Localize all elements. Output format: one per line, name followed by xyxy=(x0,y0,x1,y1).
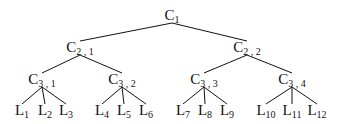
node-label: C xyxy=(164,7,174,23)
tree-node-l12: L12 xyxy=(307,103,326,120)
tree-node-l4: L4 xyxy=(95,103,109,120)
tree-edge xyxy=(42,55,80,73)
tree-node-l10: L10 xyxy=(256,103,275,120)
tree-node-l8: L8 xyxy=(198,103,212,120)
tree-node-l9: L9 xyxy=(220,103,234,120)
node-label: L xyxy=(139,102,148,118)
tree-node-l1: L1 xyxy=(15,103,29,120)
node-subscript: 12 xyxy=(317,109,327,120)
tree-edge xyxy=(80,23,172,41)
tree-node-l11: L11 xyxy=(283,103,302,120)
node-subscript: 2 xyxy=(47,109,52,120)
node-label: L xyxy=(95,102,104,118)
node-subscript: 11 xyxy=(292,109,302,120)
node-label: C xyxy=(278,71,288,87)
node-subscript: 4 xyxy=(104,109,109,120)
tree-node-c34: C3 , 4 xyxy=(278,72,306,89)
node-subscript: 5 xyxy=(126,109,131,120)
node-label: L xyxy=(220,102,229,118)
node-label: L xyxy=(256,102,265,118)
tree-node-l3: L3 xyxy=(59,103,73,120)
tree-node-c33: C3 , 3 xyxy=(190,72,218,89)
node-subscript: 8 xyxy=(207,109,212,120)
node-subscript: 2 , 1 xyxy=(76,46,94,57)
tree-node-c32: C3 , 2 xyxy=(108,72,136,89)
tree-node-c22: C2 , 2 xyxy=(233,40,261,57)
tree-node-c21: C2 , 1 xyxy=(66,40,94,57)
node-subscript: 1 xyxy=(24,109,29,120)
node-label: L xyxy=(176,102,185,118)
node-subscript: 2 , 2 xyxy=(243,46,261,57)
tree-node-l7: L7 xyxy=(176,103,190,120)
node-label: L xyxy=(117,102,126,118)
node-label: L xyxy=(15,102,24,118)
node-label: L xyxy=(283,102,292,118)
node-label: C xyxy=(233,39,243,55)
node-label: C xyxy=(66,39,76,55)
node-subscript: 6 xyxy=(148,109,153,120)
node-label: L xyxy=(307,102,316,118)
tree-node-c1: C1 xyxy=(164,8,179,25)
node-label: L xyxy=(38,102,47,118)
tree-edge xyxy=(204,55,247,73)
tree-node-c31: C3 , 1 xyxy=(28,72,56,89)
node-subscript: 3 , 1 xyxy=(38,78,56,89)
node-label: C xyxy=(28,71,38,87)
node-label: L xyxy=(198,102,207,118)
tree-node-l2: L2 xyxy=(38,103,52,120)
node-subscript: 1 xyxy=(175,14,180,25)
tree-node-l5: L5 xyxy=(117,103,131,120)
tree-node-l6: L6 xyxy=(139,103,153,120)
node-label: C xyxy=(190,71,200,87)
node-subscript: 7 xyxy=(185,109,190,120)
node-label: C xyxy=(108,71,118,87)
node-subscript: 9 xyxy=(229,109,234,120)
node-subscript: 10 xyxy=(266,109,276,120)
node-label: L xyxy=(59,102,68,118)
node-subscript: 3 , 2 xyxy=(118,78,136,89)
node-subscript: 3 , 4 xyxy=(288,78,306,89)
node-subscript: 3 xyxy=(68,109,73,120)
node-subscript: 3 , 3 xyxy=(200,78,218,89)
